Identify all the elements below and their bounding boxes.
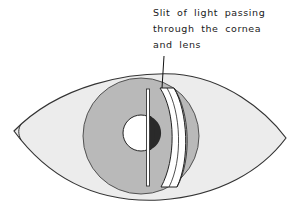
annotation-line-2: through the cornea	[153, 21, 298, 37]
pupil	[123, 115, 161, 151]
annotation-line-1: Slit of light passing	[153, 5, 298, 21]
annotation-line-3: and lens	[153, 37, 298, 53]
cornea-slit	[147, 89, 150, 186]
slit-annotation: Slit of light passing through the cornea…	[153, 5, 298, 53]
